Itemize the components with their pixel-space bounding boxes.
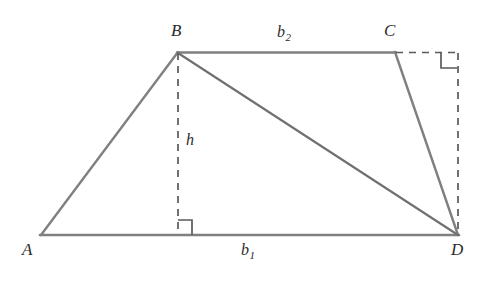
right-angle-marker-corner-icon [441, 53, 457, 68]
measure-base-b1: b [241, 241, 249, 258]
measure-sub-b1: 1 [250, 249, 256, 261]
measure-label-h: h [186, 132, 194, 148]
measure-sub-b2: 2 [286, 31, 292, 43]
vertex-label-d: D [451, 241, 463, 258]
measure-base-b2: b [277, 23, 285, 40]
diagonal-BD [178, 53, 458, 235]
measure-base-h: h [186, 131, 194, 148]
geometry-canvas [0, 0, 484, 281]
trapezoid-figure: A B C D b1 b2 h [0, 0, 484, 281]
measure-label-b2: b2 [277, 24, 291, 43]
vertex-label-a: A [22, 241, 32, 258]
vertex-label-c: C [384, 22, 395, 39]
measure-label-b1: b1 [241, 242, 255, 261]
edge-AB [41, 52, 178, 235]
right-angle-marker-base-icon [178, 220, 192, 235]
edge-CD [395, 52, 458, 235]
vertex-label-b: B [171, 22, 181, 39]
